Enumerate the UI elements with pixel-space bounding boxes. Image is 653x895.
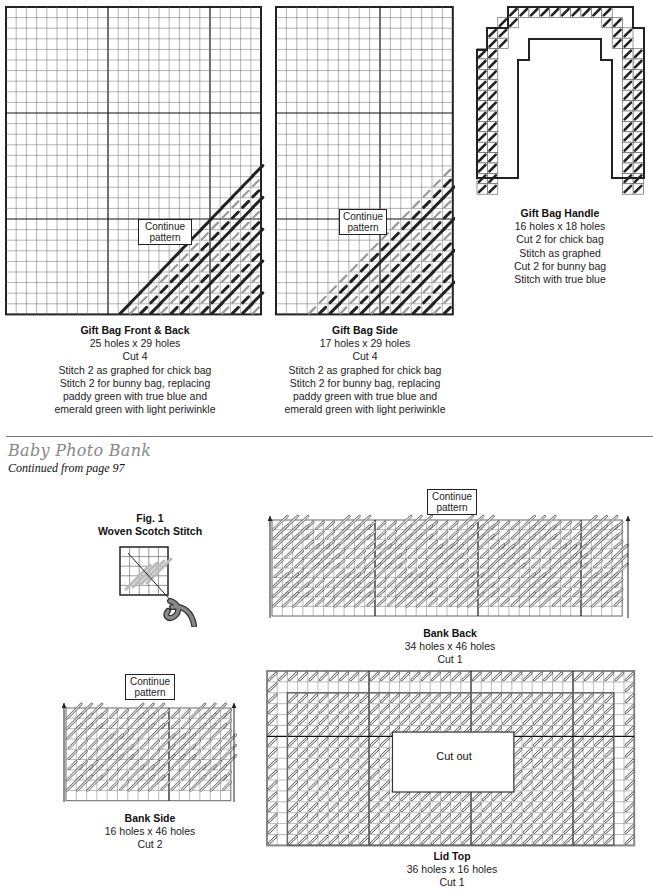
continue-pattern-label: Continue pattern	[138, 219, 192, 245]
continue-pattern-label: Continue pattern	[125, 674, 175, 700]
caption-cut: Cut 4	[0, 350, 270, 363]
gift-bag-side-chart	[275, 6, 455, 320]
section-subtitle: Continued from page 97	[8, 461, 125, 476]
cutout-label: Cut out	[392, 750, 516, 762]
caption-title: Gift Bag Front & Back	[0, 324, 270, 337]
gift-bag-front-back-caption: Gift Bag Front & Back 25 holes x 29 hole…	[0, 324, 270, 416]
gift-bag-handle-chart	[475, 5, 650, 205]
woven-scotch-stitch-figure	[118, 545, 198, 627]
section-title: Baby Photo Bank	[8, 441, 151, 460]
fig1-caption: Fig. 1 Woven Scotch Stitch	[80, 512, 220, 538]
caption-size: 25 holes x 29 holes	[0, 337, 270, 350]
continue-pattern-label: Continue pattern	[339, 209, 387, 235]
bank-side-chart	[62, 702, 237, 806]
continue-pattern-label: Continue pattern	[427, 489, 477, 515]
gift-bag-front-back-chart	[5, 6, 265, 320]
bank-back-caption: Bank Back 34 holes x 46 holes Cut 1	[350, 627, 550, 667]
gift-bag-side-caption: Gift Bag Side 17 holes x 29 holes Cut 4 …	[265, 324, 465, 416]
bank-side-caption: Bank Side 16 holes x 46 holes Cut 2	[50, 812, 250, 852]
bank-back-chart	[268, 514, 638, 624]
section-divider	[6, 436, 653, 437]
lid-top-caption: Lid Top 36 holes x 16 holes Cut 1	[352, 850, 552, 890]
gift-bag-handle-caption: Gift Bag Handle 16 holes x 18 holes Cut …	[470, 207, 650, 286]
